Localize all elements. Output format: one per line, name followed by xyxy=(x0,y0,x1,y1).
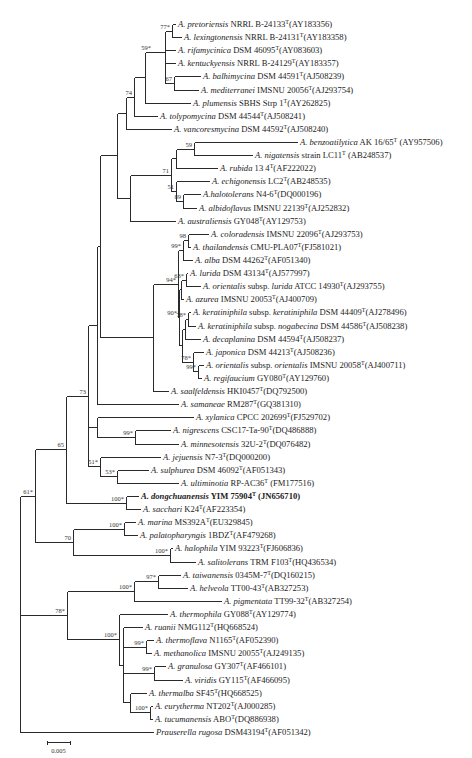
taxon-label: A. thermophila GY088T(AY129774) xyxy=(169,609,296,619)
bootstrap-value: 94* xyxy=(166,276,176,283)
taxon-label: A. thermoflava N1165T(AF052390) xyxy=(155,635,279,645)
taxon-label: A. dongchuanensis YIM 75904T (JN656710) xyxy=(140,491,300,501)
taxon-label: A. nigrescens CSC17-Ta-90T(DQ486888) xyxy=(172,425,316,435)
taxon-label: A. keratiniphila subsp. nogabecina DSM 4… xyxy=(197,321,407,331)
bootstrap-value: 78* xyxy=(176,311,186,318)
taxon-label: A. regifaucium GY080T(AY129760) xyxy=(203,373,329,383)
taxon-label: A. eurytherma NT202T(AJ000285) xyxy=(154,701,276,711)
scale-bar-label: 0.005 xyxy=(51,747,66,754)
taxon-label: A. jejuensis N7-3T(DQ000200) xyxy=(162,452,270,462)
bootstrap-value: 70 xyxy=(65,534,72,541)
bootstrap-value: 100* xyxy=(104,631,117,638)
bootstrap-value: 100* xyxy=(135,704,148,711)
taxon-label: A. australiensis GY048T(AY129753) xyxy=(177,216,306,226)
taxon-label: A. tucumanensis ABOT(DQ886938) xyxy=(154,714,279,724)
bootstrap-value: 59* xyxy=(141,44,151,51)
taxon-label: A. balhimycina DSM 44591T(AJ508239) xyxy=(202,71,344,81)
taxon-label: A. minnesotensis 32U-2T(DQ076482) xyxy=(180,439,311,449)
taxon-label: A. keratiniphila subsp. keratiniphila DS… xyxy=(192,307,407,317)
bootstrap-value: 65 xyxy=(58,441,65,448)
bootstrap-value: 100* xyxy=(109,521,122,528)
taxon-label: A. alba DSM 44262T(AF051340) xyxy=(194,255,311,265)
taxon-label: A. sacchari K24T(AF223354) xyxy=(142,504,245,514)
bootstrap-value: 90* xyxy=(167,309,177,316)
bootstrap-value: 97* xyxy=(146,573,156,580)
taxon-label: A. granulosa GY307T(AF466101) xyxy=(167,661,286,671)
taxon-label: A. tolypomycina DSM 44544T(AJ508241) xyxy=(159,111,305,121)
taxon-label: A. ruanii NMG112T(HQ668524) xyxy=(144,622,258,632)
taxon-label: A. lurida DSM 43134T(AJ577997) xyxy=(189,268,310,278)
bootstrap-value: 99* xyxy=(142,665,152,672)
taxon-label: A. thermalba SF45T(HQ668525) xyxy=(148,688,262,698)
bootstrap-value: 100* xyxy=(119,583,132,590)
taxon-label: A. nigatensis strain LC11T (AB248537) xyxy=(254,150,391,160)
bootstrap-value: 100* xyxy=(155,547,168,554)
taxon-label: A. xylanica CPCC 202699T(FJ529702) xyxy=(195,412,330,422)
taxon-label: A. palatopharyngis 1BDZT(AF479268) xyxy=(139,530,276,540)
taxon-label: A. taiwanensis 0345M-7T(DQ160215) xyxy=(182,570,315,580)
bootstrap-value: 59 xyxy=(186,141,193,148)
taxon-label: A. pigmentata TT99-32T(AB327254) xyxy=(223,596,352,606)
bootstrap-value: 89 xyxy=(175,193,182,200)
taxon-label: A. salitolerans TRM F103T(HQ436534) xyxy=(197,557,336,567)
taxon-label: A. mediterranei IMSNU 20056T(AJ293754) xyxy=(200,85,353,95)
bootstrap-value: 99* xyxy=(171,242,181,249)
taxon-label: A. saalfeldensis HKI0457T(DQ792500) xyxy=(170,386,307,396)
taxon-label: A. samaneae RM287T(GQ381310) xyxy=(180,399,301,409)
taxon-label: A. orientalis subsp. orientalis IMSNU 20… xyxy=(205,360,406,370)
taxon-label: A. decaplanina DSM 44594T(AJ508237) xyxy=(202,334,344,344)
taxon-label: A. coloradensis IMSNU 22096T(AJ293753) xyxy=(210,229,363,239)
bootstrap-value: 74 xyxy=(126,89,133,96)
bootstrap-value: 98 xyxy=(180,232,187,239)
phylogenetic-tree: A. pretoriensis NRRL B-24133T(AY183356)A… xyxy=(0,0,472,758)
taxon-label: A.halotolerans N4-6T(DQ000196) xyxy=(202,189,321,199)
taxon-label: A. pretoriensis NRRL B-24133T(AY183356) xyxy=(177,19,332,29)
bootstrap-value: 99* xyxy=(123,429,133,436)
taxon-label: A. benzoatilytica AK 16/65T (AY957506) xyxy=(299,137,443,147)
taxon-label: A. helveola TT00-43T(AB327253) xyxy=(189,583,308,593)
taxon-label: A. lexingtonensis NRRL B-24131T(AY183358… xyxy=(183,32,347,42)
bootstrap-value: 53* xyxy=(105,468,115,475)
bootstrap-value: 51 xyxy=(168,183,175,190)
taxon-label: A. sulphurea DSM 46092T(AF051343) xyxy=(150,465,285,475)
taxon-label: A. albidoflavus IMSNU 22139T(AJ252832) xyxy=(198,203,349,213)
taxon-label: A. halophila YIM 93223T(FJ606836) xyxy=(174,543,303,553)
bootstrap-value: 99* xyxy=(186,363,196,370)
taxon-label: A. rubida 13 4T(AF222022) xyxy=(219,163,316,173)
taxon-label: A. kentuckyensis NRRL B-24129T(AY183357) xyxy=(177,58,339,68)
taxon-label: A. echigonensis LC2T(AB248535) xyxy=(211,176,331,186)
taxon-label: Prauserella rugosa DSM43194T(AF051342) xyxy=(155,727,311,737)
taxon-label: A. marina MS392AT(EU329845) xyxy=(137,517,253,527)
taxon-label: A. vancoresmycina DSM 44592T(AJ508240) xyxy=(173,124,328,134)
bootstrap-value: 77* xyxy=(160,23,170,30)
taxon-label: A. japonica DSM 44213T(AJ508236) xyxy=(205,347,335,357)
taxon-label: A. orientalis subsp. lurida ATCC 14930T(… xyxy=(202,281,385,291)
bootstrap-value: 61* xyxy=(23,488,33,495)
bootstrap-value: 73 xyxy=(80,388,87,395)
taxon-label: A. ultiminotia RP-AC36T (FM177516) xyxy=(180,478,314,488)
taxon-label: A. azurea IMSNU 20053T(AJ400709) xyxy=(185,294,317,304)
bootstrap-value: 99* xyxy=(134,639,144,646)
bootstrap-value: 78* xyxy=(55,607,65,614)
bootstrap-value: 51* xyxy=(88,458,98,465)
bootstrap-value: 100* xyxy=(111,495,124,502)
taxon-label: A. plumensis SBHS Strp 1T(AY262825) xyxy=(192,98,330,108)
taxon-label: A. viridis GY115T(AF466095) xyxy=(184,675,290,685)
bootstrap-value: 67 xyxy=(166,75,173,82)
taxon-label: A. rifamycinica DSM 46095T(AY083603) xyxy=(177,45,322,55)
taxon-label: A. methanolica IMSNU 20055T(AJ249135) xyxy=(153,648,304,658)
taxon-label: A. thailandensis CMU-PLA07T(FJ581021) xyxy=(192,242,341,252)
bootstrap-value: 71 xyxy=(163,167,170,174)
